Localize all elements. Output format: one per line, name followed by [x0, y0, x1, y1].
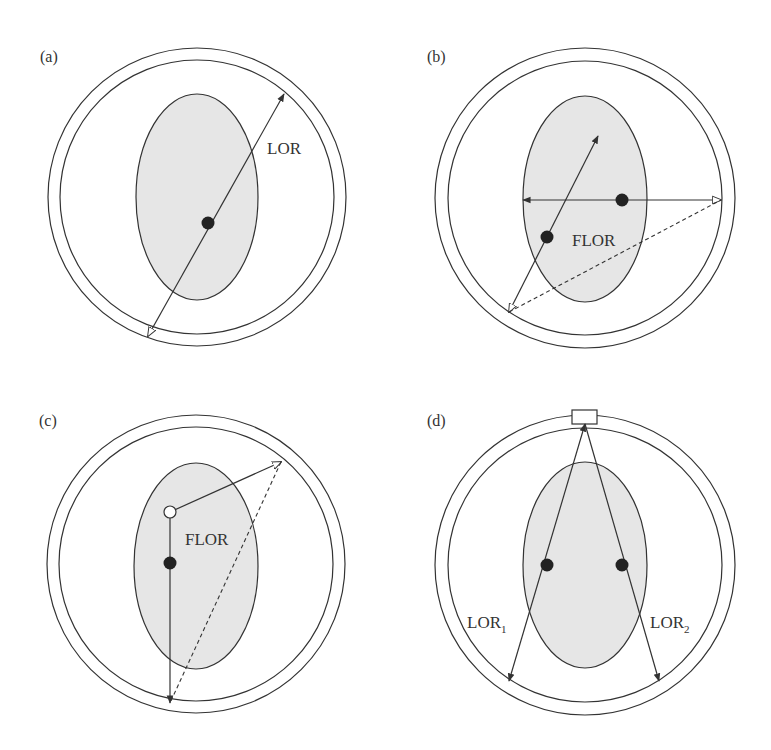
panel-label-b: (b) [427, 48, 446, 66]
scatter-point-open [164, 506, 176, 518]
annihilation-point-2 [616, 559, 629, 572]
panel-a: (a) LOR [40, 48, 346, 346]
scatter-point [541, 231, 554, 244]
pet-lor-diagram: (a) LOR (b) FLOR (c) FLOR (d) [0, 0, 771, 750]
panel-label-d: (d) [427, 412, 446, 430]
phantom-ellipse [134, 463, 258, 669]
annihilation-point [164, 557, 177, 570]
detector-element [572, 410, 597, 424]
panel-d: (d) LOR1 LOR2 [427, 410, 735, 715]
panel-label-a: (a) [40, 48, 58, 66]
flor-label: FLOR [572, 231, 616, 250]
panel-b: (b) FLOR [427, 48, 735, 348]
lor-2-label: LOR2 [650, 613, 690, 635]
annihilation-point-1 [541, 559, 554, 572]
flor-label: FLOR [185, 530, 229, 549]
panel-label-c: (c) [39, 412, 57, 430]
lor-1-label: LOR1 [467, 613, 507, 635]
phantom-ellipse [136, 94, 258, 300]
panel-c: (c) FLOR [39, 412, 345, 713]
lor-label: LOR [267, 139, 302, 158]
annihilation-point [202, 217, 215, 230]
annihilation-point [616, 194, 629, 207]
